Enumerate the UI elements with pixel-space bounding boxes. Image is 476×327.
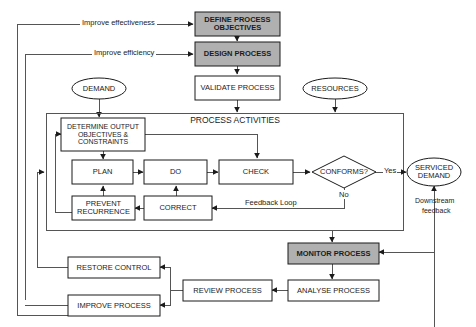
shape-serviced-demand: [407, 158, 461, 186]
edge-label-no: No: [338, 190, 350, 199]
shape-improve-process: [68, 295, 160, 316]
shape-analyse-process: [288, 280, 379, 301]
shape-plan: [72, 160, 133, 184]
shape-do: [144, 160, 207, 184]
shape-validate-process: [195, 76, 280, 100]
edge-label-improve-effectiveness: Improve effectiveness: [80, 18, 157, 27]
edge-label-downstream-feedback-line1: Downstream: [415, 197, 454, 204]
shape-define-process-objectives: [195, 12, 280, 36]
shape-determine-output: [61, 118, 145, 151]
edge-label-yes: Yes: [383, 166, 397, 175]
shape-design-process: [195, 42, 280, 66]
shape-prevent-recurrence: [72, 196, 135, 220]
edge-label-downstream-feedback-line2: feedback: [422, 207, 450, 214]
shape-review-process: [183, 280, 272, 301]
shape-correct: [144, 196, 212, 220]
edge-label-feedback-loop: Feedback Loop: [243, 198, 299, 207]
node-shapes: [61, 12, 461, 316]
shape-demand: [72, 78, 126, 99]
shape-resources: [303, 78, 367, 99]
flowchart-canvas: DEFINE PROCESS OBJECTIVES DESIGN PROCESS…: [0, 0, 476, 327]
edge-label-improve-efficiency: Improve efficiency: [92, 48, 156, 57]
flowchart-vector-layer: [0, 0, 476, 327]
shape-check: [219, 160, 293, 184]
shape-conforms: [312, 156, 376, 188]
shape-restore-control: [68, 257, 160, 278]
shape-monitor-process: [288, 243, 379, 264]
